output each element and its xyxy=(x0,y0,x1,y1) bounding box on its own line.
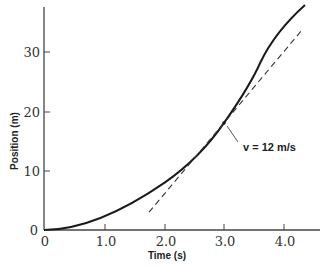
position-curve xyxy=(44,5,305,230)
y-axis-title: Position (m) xyxy=(9,112,20,170)
x-tick-label-3: 3.0 xyxy=(215,234,236,249)
x-axis-title: Time (s) xyxy=(148,250,186,261)
y-tick-label-30: 30 xyxy=(23,45,40,60)
y-tick-label-0: 0 xyxy=(30,223,38,238)
velocity-annotation: v = 12 m/s xyxy=(243,141,296,153)
x-tick-label-2: 2.0 xyxy=(156,234,177,249)
annotation-leader xyxy=(227,126,238,142)
y-tick-label-10: 10 xyxy=(23,164,40,179)
y-tick-label-20: 20 xyxy=(23,105,40,120)
position-time-chart: 0 10 20 30 0 1.0 2.0 3.0 4.0 Time (s) Po… xyxy=(0,0,331,269)
x-ticks xyxy=(105,224,284,230)
x-tick-label-1: 1.0 xyxy=(96,234,117,249)
x-tick-label-0: 0 xyxy=(41,234,49,249)
y-ticks xyxy=(44,52,50,171)
x-tick-label-4: 4.0 xyxy=(275,234,296,249)
tangent-point xyxy=(222,121,226,125)
